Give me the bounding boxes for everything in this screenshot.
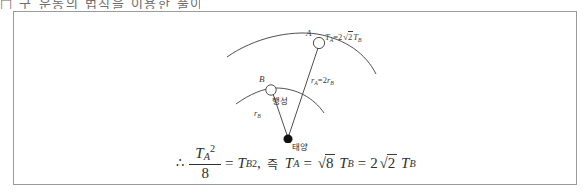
period-b-squared: TB2 <box>237 155 257 172</box>
final-coefficient: 2 <box>370 155 378 172</box>
radius-b-label: rB <box>254 109 261 119</box>
radius-line-a <box>288 45 319 138</box>
sqrt-eight: √8 <box>316 155 335 172</box>
period-b-term-1: TB <box>339 155 354 172</box>
sqrt-two: √2 <box>378 155 397 172</box>
tb3-subscript: B <box>409 158 415 169</box>
planet-b-label: B <box>259 75 265 84</box>
radicand-two: 2 <box>387 154 397 171</box>
planet-text-label: 행성 <box>272 97 288 106</box>
radius-relation-label: rA=2rB <box>311 76 334 86</box>
figure-panel: A TA=2√2TB rA=2rB B rB 행성 태양 ∴ TA2 8 = T… <box>13 11 577 185</box>
equation-line: ∴ TA2 8 = TB2 , 즉 TA = √8 TB = 2 √2 TB <box>14 140 578 186</box>
fraction-denominator: 8 <box>189 164 221 182</box>
period-radicand: 2 <box>348 31 354 42</box>
period-a-squared-over-eight: TA2 8 <box>192 144 218 182</box>
period-relation-label: TA=2√2TB <box>325 33 362 43</box>
therefore-symbol: ∴ <box>176 155 184 171</box>
orbit-diagram: A TA=2√2TB rA=2rB B rB 행성 태양 <box>14 12 578 143</box>
equals-sign-2: = <box>303 155 311 172</box>
numerator-exponent: 2 <box>210 143 215 154</box>
tb3-symbol: T <box>401 155 409 172</box>
tb-symbol: T <box>237 155 245 172</box>
ta-symbol: T <box>285 155 293 172</box>
tb2-symbol: T <box>339 155 347 172</box>
numerator-symbol: T <box>195 145 203 161</box>
period-a-term: TA <box>285 155 300 172</box>
then-word: 즉 <box>267 155 278 172</box>
radicand-eight: 8 <box>325 154 335 171</box>
radius-rhs-subscript: B <box>330 80 334 86</box>
planet-b-marker <box>266 85 276 95</box>
clipped-header-text: □ 구 운동의 법칙을 이용한 풀이 <box>0 0 200 9</box>
tb2-subscript: B <box>348 158 354 169</box>
diagram-svg <box>14 12 578 143</box>
ta-subscript: A <box>293 158 299 169</box>
equals-sign-1: = <box>225 155 233 172</box>
radius-b-subscript: B <box>257 113 261 119</box>
fraction-numerator: TA2 <box>192 144 218 164</box>
equals-sign-3: = <box>358 155 366 172</box>
planet-a-label: A <box>306 29 312 38</box>
period-rhs-subscript: B <box>358 37 362 43</box>
period-radical: √2 <box>342 33 353 42</box>
equation-comma: , <box>257 155 261 172</box>
planet-a-marker <box>313 37 324 48</box>
period-b-term-2: TB <box>401 155 416 172</box>
